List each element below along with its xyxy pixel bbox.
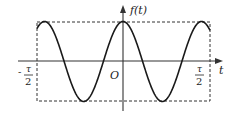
left-bound-sign: - xyxy=(18,66,21,77)
f-axis-arrow-icon xyxy=(120,5,126,13)
right-bound-numerator: τ xyxy=(197,64,203,74)
t-axis-label: t xyxy=(219,64,224,77)
waveform-diagram: f(t) t O - τ 2 τ 2 xyxy=(0,0,235,120)
right-bound-denominator: 2 xyxy=(196,76,202,87)
f-axis-label: f(t) xyxy=(129,4,147,17)
left-bound-numerator: τ xyxy=(26,64,32,74)
origin-label: O xyxy=(110,69,119,82)
left-bound-denominator: 2 xyxy=(25,76,31,87)
